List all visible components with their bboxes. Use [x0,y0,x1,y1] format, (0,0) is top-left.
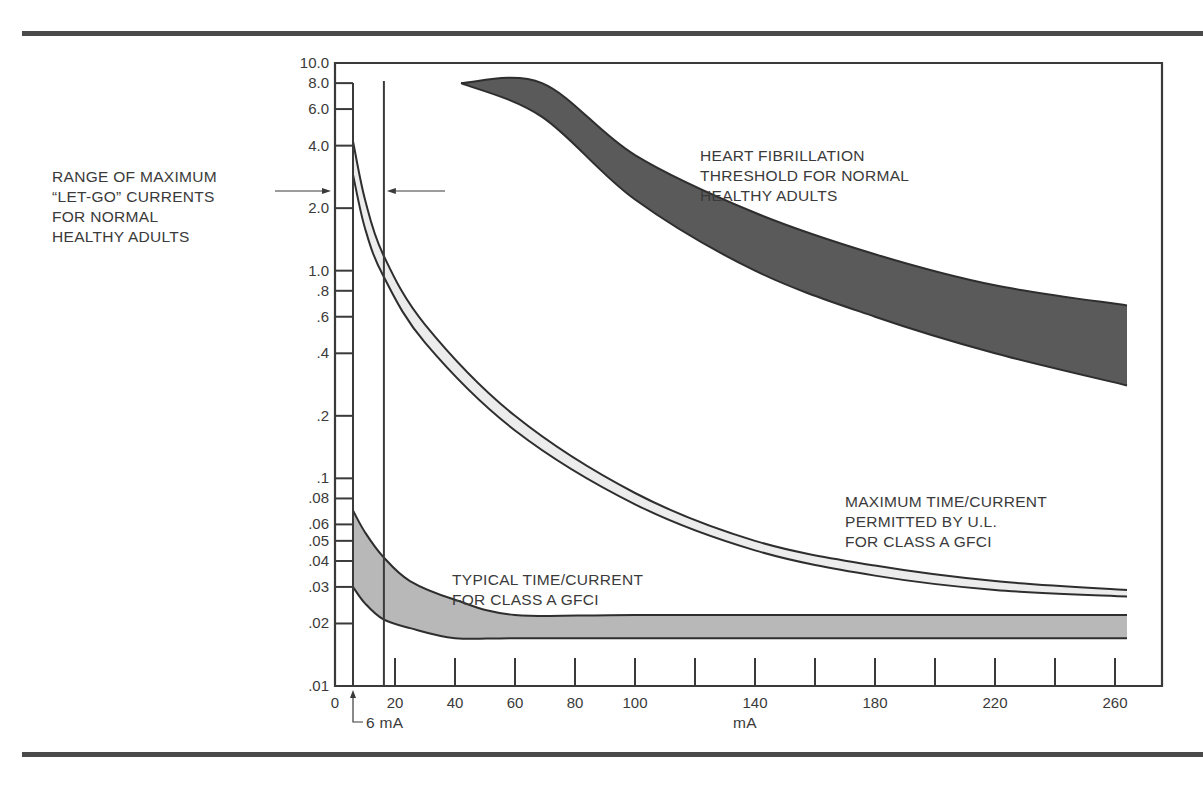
y-tick-label: 2.0 [308,199,329,216]
arrow-right-head-icon [322,188,331,194]
x-axis: 020406080100140180220260 [331,658,1128,711]
ul-max-label: MAXIMUM TIME/CURRENT PERMITTED BY U.L. F… [845,492,1047,552]
y-tick-label: .06 [308,515,329,532]
gfci-time-current-chart: 10.08.06.04.02.01.0.8.6.4.2.1.08.06.05.0… [0,0,1203,787]
y-tick-label: .1 [316,469,329,486]
x-tick-label: 100 [622,694,647,711]
y-tick-label: .8 [316,282,329,299]
y-axis: 10.08.06.04.02.01.0.8.6.4.2.1.08.06.05.0… [300,54,353,694]
typical-gfci-label: TYPICAL TIME/CURRENT FOR CLASS A GFCI [452,570,643,610]
y-tick-label: 8.0 [308,74,329,91]
arrow-left-head-icon [387,188,396,194]
y-tick-label: .08 [308,489,329,506]
fibrillation-band [461,78,1127,386]
x-tick-label: 60 [507,694,524,711]
y-tick-label: .03 [308,578,329,595]
x-tick-label: 20 [387,694,404,711]
six-ma-arrow-icon [350,690,356,698]
y-tick-label: .2 [316,407,329,424]
y-tick-label: .02 [308,614,329,631]
x-tick-label: 180 [862,694,887,711]
y-tick-label: 6.0 [308,100,329,117]
x-tick-label: 220 [982,694,1007,711]
let-go-range-label: RANGE OF MAXIMUM “LET-GO” CURRENTS FOR N… [52,167,217,247]
y-tick-label: .4 [316,344,329,361]
x-tick-label: 260 [1102,694,1127,711]
y-tick-label: .01 [308,677,329,694]
y-tick-label: .05 [308,532,329,549]
fibrillation-label: HEART FIBRILLATION THRESHOLD FOR NORMAL … [700,146,909,206]
y-tick-label: 4.0 [308,137,329,154]
six-ma-label: 6 mA [366,713,403,733]
y-tick-label: .6 [316,308,329,325]
six-ma-pointer [353,694,363,722]
x-tick-label: 80 [567,694,584,711]
y-tick-label: .04 [308,552,329,569]
y-tick-label: 1.0 [308,262,329,279]
x-tick-label: 0 [331,694,339,711]
x-tick-label: 40 [447,694,464,711]
x-axis-unit-label: mA [733,713,757,733]
y-tick-label: 10.0 [300,54,329,71]
x-tick-label: 140 [742,694,767,711]
